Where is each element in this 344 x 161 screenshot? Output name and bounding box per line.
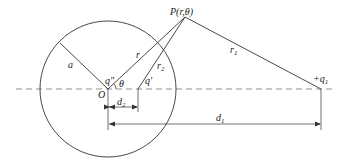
image-charge-origin-label: q" — [105, 75, 115, 86]
d1-label: d1 — [216, 112, 225, 125]
d2-start-arrowhead-icon — [109, 105, 115, 110]
r1-line — [185, 17, 321, 89]
theta-label: θ — [119, 78, 124, 89]
image-charge-label: q' — [145, 75, 153, 86]
origin-label: O — [98, 89, 105, 100]
charge-label: +q1 — [313, 73, 328, 86]
diagram-canvas: P(r,θ) a r q" θ O q' r2 r1 +q1 d2 d1 — [0, 0, 344, 161]
r1-label: r1 — [230, 44, 237, 57]
r-label: r — [136, 49, 140, 60]
d1-start-arrowhead-icon — [109, 122, 115, 127]
r2-label: r2 — [157, 60, 165, 73]
point-p-label: P(r,θ) — [169, 6, 194, 18]
radius-label: a — [68, 59, 73, 70]
